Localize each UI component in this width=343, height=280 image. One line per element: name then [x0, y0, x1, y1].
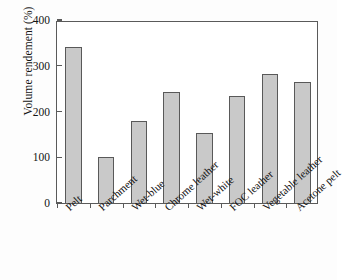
x-axis-labels: PeltParchmentWet-blueChrome leatherWet-w…: [56, 204, 318, 280]
y-tick-label: 300: [33, 58, 50, 74]
y-tick-mark: [57, 65, 62, 66]
bar: [65, 47, 81, 203]
y-tick-label: 400: [33, 12, 50, 28]
y-tick-label: 200: [33, 104, 50, 120]
plot-area: 0100200300400: [56, 21, 318, 204]
y-tick-mark: [57, 111, 62, 112]
y-tick-mark: [57, 19, 62, 20]
y-tick-label: 0: [44, 195, 50, 211]
y-tick-label: 100: [33, 149, 50, 165]
y-tick-mark: [57, 157, 62, 158]
